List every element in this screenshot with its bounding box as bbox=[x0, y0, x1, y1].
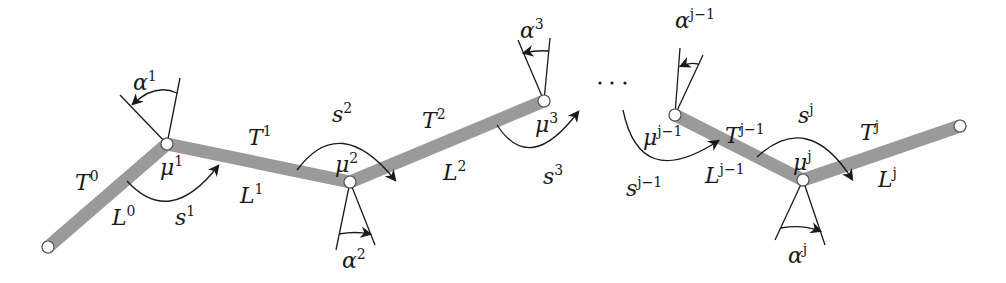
joint-mu3 bbox=[538, 95, 550, 107]
ellipsis bbox=[598, 81, 626, 84]
labels: T0 L0 μ1 s1 α1 T1 L1 s2 μ2 α2 T2 L2 α3 μ… bbox=[75, 6, 897, 273]
label-muj: μj bbox=[793, 148, 812, 175]
joint-mu1 bbox=[161, 138, 173, 150]
label-Tj: Tj bbox=[860, 118, 879, 145]
joint-0 bbox=[42, 241, 54, 253]
label-aj-1: αj−1 bbox=[675, 6, 715, 33]
label-sj: sj bbox=[798, 101, 814, 128]
label-mu1: μ1 bbox=[160, 153, 183, 180]
label-Lj: Lj bbox=[877, 165, 897, 192]
label-L1: L1 bbox=[239, 181, 264, 208]
label-muj-1: μj−1 bbox=[643, 123, 682, 150]
label-s2: s2 bbox=[332, 100, 352, 127]
label-T0: T0 bbox=[75, 168, 99, 195]
joint-muj-1 bbox=[669, 109, 681, 121]
label-Lj-1: Lj−1 bbox=[704, 161, 745, 188]
label-a3: α3 bbox=[520, 16, 544, 43]
label-s1: s1 bbox=[175, 203, 195, 230]
label-a2: α2 bbox=[342, 246, 366, 273]
joint-muj bbox=[797, 174, 809, 186]
label-L2: L2 bbox=[442, 158, 467, 185]
label-sj-1: sj−1 bbox=[626, 174, 662, 201]
label-T1: T1 bbox=[248, 123, 272, 150]
label-T2: T2 bbox=[422, 106, 446, 133]
label-L0: L0 bbox=[111, 203, 136, 230]
link-0 bbox=[48, 144, 167, 247]
joint-end bbox=[954, 120, 966, 132]
label-aj: αj bbox=[788, 241, 807, 268]
label-s3: s3 bbox=[543, 162, 563, 189]
label-mu3: μ3 bbox=[535, 110, 558, 137]
joint-mu2 bbox=[344, 176, 356, 188]
label-mu2: μ2 bbox=[335, 150, 358, 177]
kinematic-chain-diagram: T0 L0 μ1 s1 α1 T1 L1 s2 μ2 α2 T2 L2 α3 μ… bbox=[0, 0, 1006, 283]
